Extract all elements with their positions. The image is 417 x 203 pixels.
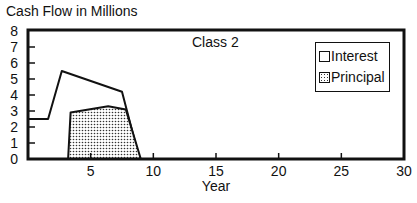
x-axis-title: Year (202, 178, 230, 194)
legend-label: Principal (331, 69, 385, 85)
y-tick-label: 0 (4, 152, 18, 166)
y-tick-label: 4 (4, 88, 18, 102)
x-tick-label: 10 (146, 164, 162, 178)
chart-subtitle: Class 2 (192, 34, 239, 50)
interest-swatch-icon (319, 51, 330, 62)
legend: Interest Principal (315, 42, 390, 92)
legend-item-principal: Principal (319, 69, 385, 85)
series-principal (68, 106, 141, 159)
x-tick-label: 25 (334, 164, 350, 178)
x-tick-label: 15 (208, 164, 224, 178)
x-tick-label: 20 (271, 164, 287, 178)
y-tick-label: 1 (4, 136, 18, 150)
y-tick-label: 3 (4, 104, 18, 118)
principal-swatch-icon (319, 72, 330, 83)
y-tick-label: 2 (4, 120, 18, 134)
y-tick-label: 5 (4, 72, 18, 86)
x-tick-label: 5 (87, 164, 95, 178)
x-tick-label: 30 (396, 164, 412, 178)
y-tick-label: 6 (4, 56, 18, 70)
legend-item-interest: Interest (319, 48, 378, 64)
y-tick-label: 7 (4, 40, 18, 54)
legend-label: Interest (331, 48, 378, 64)
y-tick-label: 8 (4, 24, 18, 38)
